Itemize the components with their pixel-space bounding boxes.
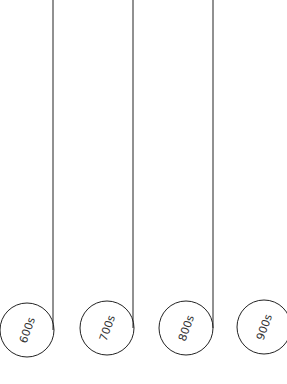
node-label: 600s xyxy=(17,315,38,345)
node-label: 900s xyxy=(254,312,275,342)
node-label: 700s xyxy=(97,313,118,343)
node-600s: 600s xyxy=(0,0,54,357)
node-900s: 900s xyxy=(237,300,287,354)
node-700s: 700s xyxy=(80,0,134,355)
node-800s: 800s xyxy=(159,0,213,355)
timeline-diagram: 600s 700s 800s 900s xyxy=(0,0,287,384)
node-label: 800s xyxy=(176,313,197,343)
